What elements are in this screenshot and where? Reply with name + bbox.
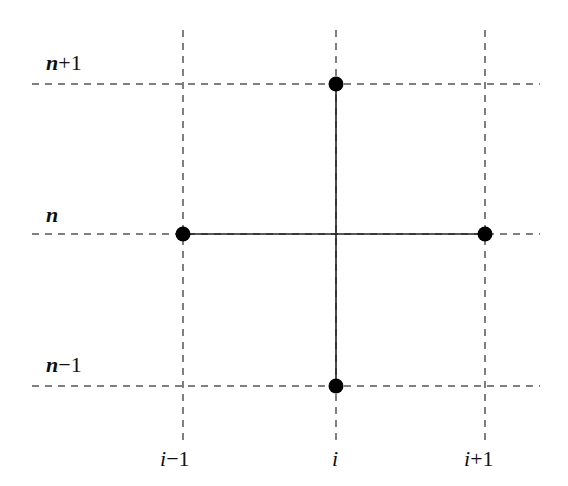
row-op: − [58, 352, 70, 377]
row-var: n [46, 202, 58, 227]
node-i-minus-1-n [176, 227, 191, 242]
stencil-nodes [176, 77, 493, 394]
stencil-diagram [0, 0, 568, 486]
row-label-n-plus-1: n+1 [46, 50, 82, 76]
col-op: + [470, 446, 482, 471]
row-label-n: n [46, 202, 58, 228]
col-label-i-plus-1: i+1 [464, 446, 494, 472]
stencil-connectors [183, 84, 485, 386]
col-var: i [332, 446, 338, 471]
row-num: 1 [71, 352, 82, 377]
col-op: − [166, 446, 178, 471]
row-var: n [46, 352, 58, 377]
col-num: 1 [483, 446, 494, 471]
node-i-plus-1-n [478, 227, 493, 242]
col-label-i: i [332, 446, 338, 472]
row-label-n-minus-1: n−1 [46, 352, 82, 378]
col-num: 1 [179, 446, 190, 471]
grid-lines [32, 30, 540, 442]
col-label-i-minus-1: i−1 [160, 446, 190, 472]
row-op: + [58, 50, 70, 75]
row-var: n [46, 50, 58, 75]
node-i-n-plus-1 [329, 77, 344, 92]
node-i-n-minus-1 [329, 379, 344, 394]
row-num: 1 [71, 50, 82, 75]
